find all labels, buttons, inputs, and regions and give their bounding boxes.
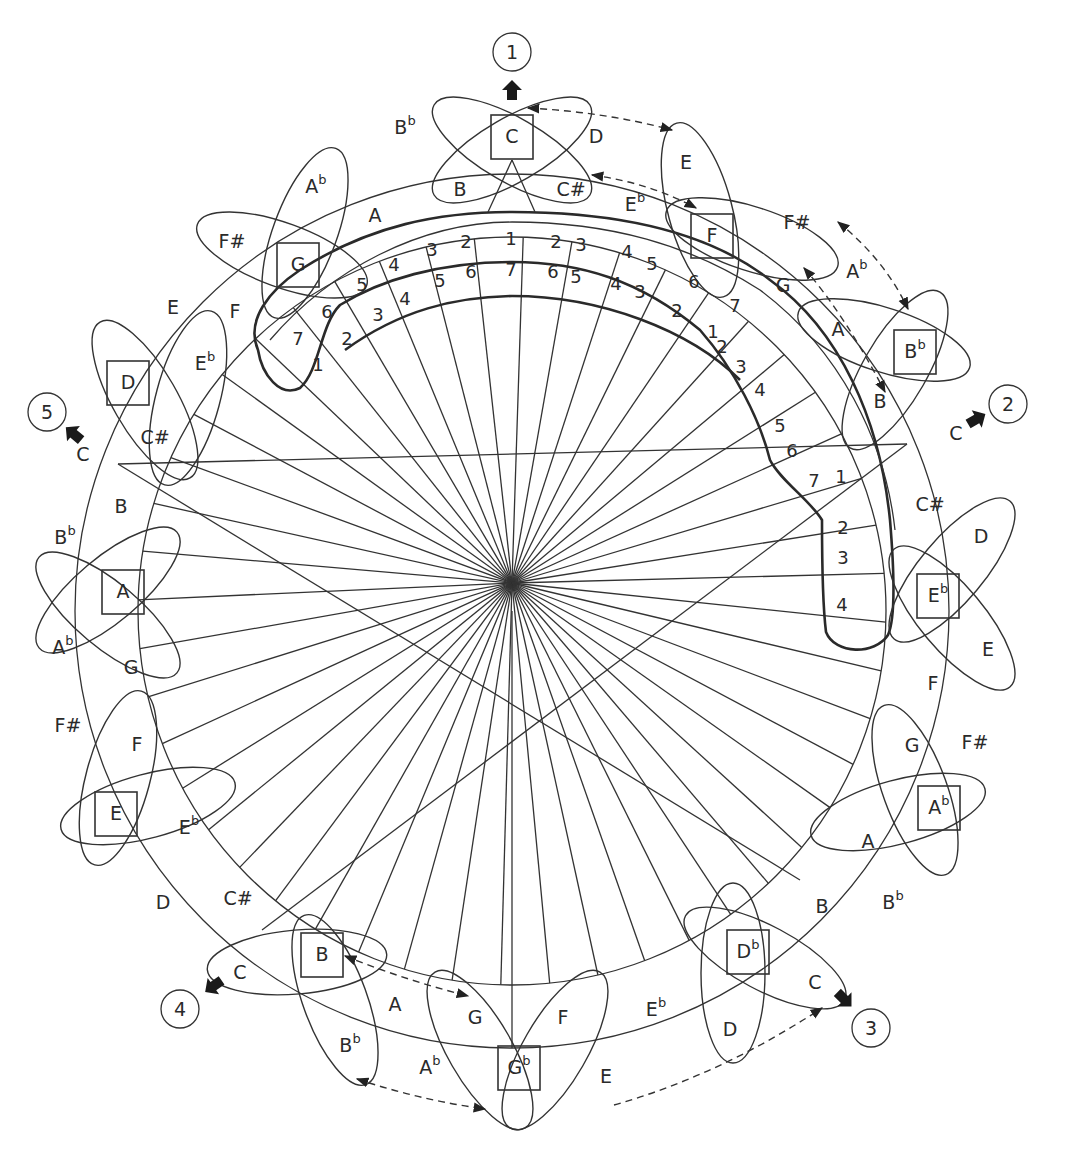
accidental: b <box>432 1053 440 1068</box>
note-name: A <box>389 993 402 1015</box>
route-marker-2: 2C <box>949 385 1027 444</box>
scale-degree-number: 1 <box>835 466 846 487</box>
note-label: F# <box>962 731 989 753</box>
note-name: G <box>124 656 139 678</box>
note-name: G <box>905 734 920 756</box>
note-name: A <box>846 260 859 282</box>
accidental: b <box>522 1053 530 1068</box>
scale-degree-number: 7 <box>729 295 740 316</box>
boxed-key: Eb <box>917 574 959 618</box>
note-label: C <box>233 961 246 983</box>
note-name: E <box>928 584 940 606</box>
accidental: b <box>895 888 903 903</box>
note-label: E <box>600 1065 612 1087</box>
chord-line <box>404 583 512 969</box>
note-label: F# <box>55 714 82 736</box>
scale-degree-number: 3 <box>426 239 437 260</box>
chord-line <box>335 282 512 583</box>
scale-degree-number: 4 <box>399 288 410 309</box>
note-name: G <box>508 1056 523 1078</box>
chord-line <box>512 583 830 808</box>
boxed-key: G <box>277 243 319 287</box>
scale-degree-number: 4 <box>388 254 399 275</box>
note-label: F <box>132 733 143 755</box>
diagram-canvas: 12C345C CFBbEbAbDbGbBEADG BbDBC#EEbF#AbA… <box>0 0 1065 1149</box>
scale-degree-number: 2 <box>671 300 682 321</box>
scale-degree-number: 7 <box>505 259 516 280</box>
chord-line <box>183 583 512 788</box>
chord-line <box>512 392 815 583</box>
key-label: D <box>121 371 136 393</box>
chord-line <box>512 583 645 961</box>
note-label: C <box>808 971 821 993</box>
note-name: G <box>291 253 306 275</box>
note-name: D <box>737 940 752 962</box>
scale-degree-number: 4 <box>836 594 847 615</box>
scale-degree-number: 2 <box>460 231 471 252</box>
note-name: A <box>419 1056 432 1078</box>
note-label: G <box>468 1006 483 1028</box>
note-label: C# <box>556 178 585 200</box>
key-label: B <box>315 943 328 965</box>
scale-degree-number: 4 <box>754 379 765 400</box>
note-name: E <box>167 296 179 318</box>
route-marker-3: 3 <box>830 985 890 1047</box>
note-name: D <box>974 525 989 547</box>
note-name: F <box>132 733 143 755</box>
note-name: G <box>776 274 791 296</box>
note-name: F <box>707 224 718 246</box>
boxed-key: E <box>95 792 137 836</box>
note-name: F# <box>55 714 82 736</box>
chord-line <box>512 583 768 883</box>
accidental: b <box>917 337 925 352</box>
key-label: E <box>110 802 122 824</box>
note-name: F# <box>962 731 989 753</box>
chord-line <box>162 583 512 744</box>
note-name: B <box>873 390 886 412</box>
boxed-key: D <box>107 361 149 405</box>
accidental: b <box>751 937 759 952</box>
note-label: Eb <box>646 995 666 1020</box>
scale-degree-number: 6 <box>688 271 699 292</box>
scale-degree-number: 7 <box>292 328 303 349</box>
chord-line <box>512 253 620 583</box>
note-name: A <box>832 318 845 340</box>
direction-arrow-icon <box>963 405 990 432</box>
note-name: E <box>625 193 637 215</box>
chord-line <box>512 270 665 583</box>
note-name: A <box>305 175 318 197</box>
note-label: E <box>680 151 692 173</box>
note-label: D <box>723 1018 738 1040</box>
note-label: F <box>558 1006 569 1028</box>
accidental: b <box>352 1031 360 1046</box>
chord-line <box>118 464 800 880</box>
note-label: Bb <box>339 1031 360 1056</box>
note-label: E <box>982 638 994 660</box>
scale-degree-number: 5 <box>434 270 445 291</box>
note-label: D <box>589 125 604 147</box>
note-label: A <box>862 830 875 852</box>
scale-degree-number: 1 <box>312 354 323 375</box>
scale-degree-number: 3 <box>837 547 848 568</box>
route-marker-1: 1 <box>493 33 531 100</box>
note-label: F <box>230 300 241 322</box>
accidental: b <box>65 633 73 648</box>
scale-degree-number: 4 <box>610 273 621 294</box>
chord-line <box>512 583 886 622</box>
note-label: D <box>974 525 989 547</box>
note-label: D <box>156 891 171 913</box>
chord-line <box>512 321 749 583</box>
scale-degree-number: 3 <box>735 356 746 377</box>
note-name: E <box>680 151 692 173</box>
note-label: Ab <box>419 1053 440 1078</box>
chord-line <box>140 583 512 649</box>
note-name: E <box>179 816 191 838</box>
accidental: b <box>941 793 949 808</box>
scale-degree-number: 3 <box>575 234 586 255</box>
note-label: F# <box>219 230 246 252</box>
note-name: A <box>117 580 130 602</box>
scale-degree-number: 6 <box>547 261 558 282</box>
note-name: B <box>54 526 67 548</box>
accidental: b <box>207 349 215 364</box>
marker-arrow-label: C <box>76 443 89 465</box>
